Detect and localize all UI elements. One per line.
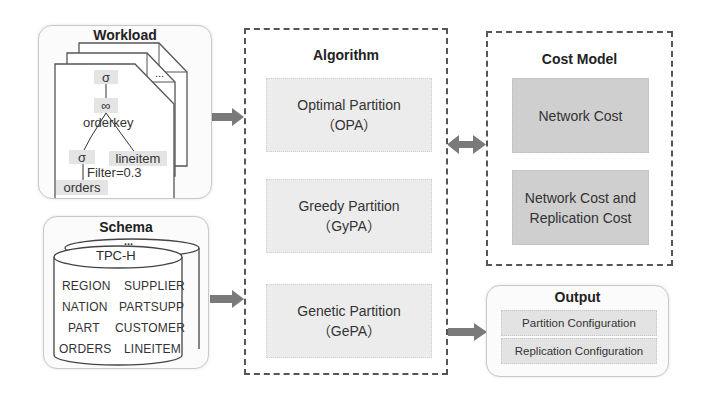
algorithm-gepa-abbr: （GePA） [317,321,381,341]
arrow-workload-to-algorithm [211,108,244,126]
cost-network-replication-line2: Replication Cost [530,208,632,228]
output-partition-configuration[interactable]: Partition Configuration [501,310,657,336]
algorithm-gypa[interactable]: Greedy Partition （GyPA） [266,179,432,253]
arrow-algorithm-cost-bidirectional [447,135,486,154]
table-supplier: SUPPLIER [124,279,185,293]
table-orders: ORDERS [59,342,112,356]
arrow-algorithm-to-output [447,323,487,341]
table-customer: CUSTOMER [115,321,185,335]
schema-panel: Schema ... TPC-H REGION SUPPLIER NATION … [43,216,209,369]
table-partsupp: PARTSUPP [119,300,184,314]
algorithm-title: Algorithm [246,47,446,63]
algorithm-gypa-abbr: （GyPA） [317,216,381,236]
db-name-label: TPC-H [96,248,136,263]
cost-network[interactable]: Network Cost [512,78,649,153]
more-queries-ellipsis: ... [155,67,164,79]
table-part: PART [68,321,100,335]
algorithm-panel: Algorithm Optimal Partition （OPA） Greedy… [244,28,448,375]
cost-model-panel: Cost Model Network Cost Network Cost and… [486,31,673,266]
output-panel: Output Partition Configuration Replicati… [486,285,669,377]
select-node-left: σ [69,150,95,164]
table-nation: NATION [62,300,108,314]
arrow-schema-to-algorithm [210,290,244,308]
filter-label: Filter=0.3 [87,165,142,180]
algorithm-gepa-name: Genetic Partition [297,301,401,321]
select-node-root: σ [94,70,118,84]
table-node-lineitem: lineitem [109,151,167,166]
algorithm-opa[interactable]: Optimal Partition （OPA） [266,78,432,152]
join-key-label: orderkey [83,115,134,130]
join-node: ∞ [94,98,118,113]
cost-network-label: Network Cost [538,106,622,126]
more-schemas-ellipsis: ... [124,235,133,247]
table-node-orders: orders [56,180,108,195]
cost-model-title: Cost Model [488,51,671,67]
cost-network-replication-line1: Network Cost and [525,188,636,208]
workload-panel: Workload ... σ ∞ orderkey σ lineitem Fil… [38,25,212,199]
algorithm-opa-name: Optimal Partition [297,95,400,115]
algorithm-opa-abbr: （OPA） [321,115,378,135]
output-replication-configuration[interactable]: Replication Configuration [501,338,657,364]
output-title: Output [487,289,668,305]
algorithm-gepa[interactable]: Genetic Partition （GePA） [266,284,432,358]
table-region: REGION [62,279,111,293]
algorithm-gypa-name: Greedy Partition [298,196,399,216]
table-lineitem: LINEITEM [124,342,181,356]
cost-network-replication[interactable]: Network Cost and Replication Cost [512,170,649,245]
